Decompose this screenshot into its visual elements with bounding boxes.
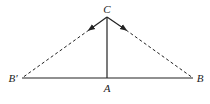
segment-c-to-b: [107, 17, 193, 78]
label-c: C: [103, 3, 111, 15]
geometry-diagram: C A B′ B: [0, 0, 210, 104]
segment-c-to-b-prime: [22, 17, 107, 78]
label-b: B: [197, 72, 204, 84]
label-b-prime: B′: [8, 72, 18, 84]
label-a: A: [103, 82, 111, 94]
